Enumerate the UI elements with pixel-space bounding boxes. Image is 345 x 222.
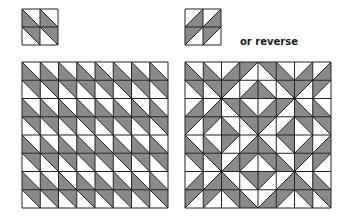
quilt-grid-repeat [21,61,169,209]
quilt-block-b-reverse [184,8,222,46]
or-reverse-caption: or reverse [240,36,298,47]
quilt-block-a [21,8,59,46]
quilt-grid-mirrored [184,61,332,209]
